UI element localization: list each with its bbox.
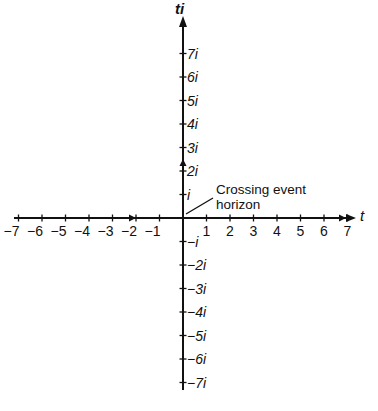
- ti-tick-label: 7i: [187, 47, 198, 61]
- ti-tick-label: −7i: [187, 376, 206, 390]
- ti-axis-arrow-icon: [179, 16, 187, 27]
- ti-tick-label: 5i: [187, 94, 198, 108]
- ti-axis-label: ti: [175, 1, 184, 16]
- t-tick-label: −3: [98, 224, 114, 238]
- t-tick-label: 5: [297, 224, 305, 238]
- marker-arrow-icon: [339, 215, 346, 222]
- t-tick-label: 6: [320, 224, 328, 238]
- ti-tick-label: 6i: [187, 70, 198, 84]
- marker-arrow-icon: [129, 215, 136, 222]
- crossing-event-horizon-annotation: Crossing event horizon: [216, 183, 306, 213]
- ti-tick-label: −3i: [187, 282, 206, 296]
- t-tick-label: 4: [273, 224, 281, 238]
- t-tick-label: 3: [250, 224, 258, 238]
- t-tick-label: 1: [203, 224, 211, 238]
- t-tick-label: 2: [226, 224, 234, 238]
- t-tick-label: −5: [51, 224, 67, 238]
- t-tick-label: −6: [27, 224, 43, 238]
- ti-tick-label: −2i: [187, 258, 206, 272]
- t-tick-label: −4: [74, 224, 90, 238]
- t-axis-label: t: [360, 208, 364, 223]
- ti-tick-label: −4i: [187, 305, 206, 319]
- annotation-line-2: horizon: [216, 198, 306, 213]
- ti-tick-label: −5i: [187, 329, 206, 343]
- ti-tick-label: 4i: [187, 117, 198, 131]
- t-tick-label: 7: [344, 224, 352, 238]
- complex-time-diagram: [0, 0, 378, 411]
- ti-tick-label: i: [187, 188, 190, 202]
- t-tick-label: −2: [121, 224, 137, 238]
- ti-tick-label: 3i: [187, 141, 198, 155]
- t-tick-label: −7: [4, 224, 20, 238]
- ti-tick-label: −6i: [187, 352, 206, 366]
- ti-tick-label: 2i: [187, 164, 198, 178]
- t-tick-label: −1: [145, 224, 161, 238]
- annotation-line-1: Crossing event: [216, 183, 306, 198]
- marker-arrow-icon: [180, 159, 187, 166]
- ti-tick-label: −i: [187, 235, 198, 249]
